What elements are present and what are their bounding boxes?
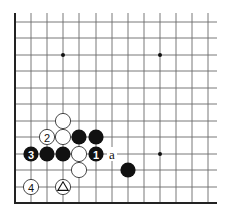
black-stone — [120, 162, 135, 177]
move-number: 1 — [93, 149, 99, 161]
board-markers: a — [107, 147, 117, 162]
move-number: 3 — [28, 149, 34, 161]
white-stone: 4 — [23, 179, 38, 194]
board-grid — [15, 13, 217, 203]
black-stone — [88, 129, 103, 144]
black-stone: 3 — [23, 146, 38, 161]
white-stone — [55, 179, 70, 194]
star-point — [158, 152, 162, 156]
stone-disc — [39, 146, 54, 161]
black-stone — [55, 146, 70, 161]
black-stone: 1 — [88, 146, 103, 161]
stone-disc — [55, 146, 70, 161]
stone-disc — [71, 129, 86, 144]
star-point — [158, 53, 162, 57]
white-stone: 2 — [39, 129, 54, 144]
black-stone — [71, 129, 86, 144]
move-number: 4 — [28, 182, 34, 194]
star-point — [61, 53, 65, 57]
white-stone — [71, 162, 86, 177]
stone-disc — [120, 162, 135, 177]
go-board: a 2314 — [0, 0, 231, 215]
white-stone — [55, 129, 70, 144]
stone-disc — [71, 146, 86, 161]
move-number: 2 — [44, 132, 50, 144]
point-label-a: a — [109, 147, 115, 162]
stone-disc — [55, 129, 70, 144]
stone-disc — [88, 129, 103, 144]
white-stone — [71, 146, 86, 161]
stone-disc — [55, 113, 70, 128]
black-stone — [39, 146, 54, 161]
white-stone — [55, 113, 70, 128]
stone-disc — [71, 162, 86, 177]
board-edges — [14, 13, 217, 204]
